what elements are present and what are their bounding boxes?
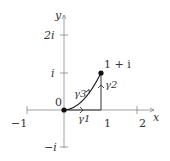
origin-label: 0 [55, 96, 62, 109]
y-tick-label-i: i [51, 67, 55, 80]
gamma3-arrow-icon [86, 90, 90, 94]
x-tick-label-1: 1 [104, 117, 111, 130]
x-axis-label: x [153, 111, 160, 124]
gamma1-label: γ1 [78, 113, 90, 124]
y-tick-label-neg-i: −i [44, 141, 57, 154]
end-point-label: 1 + i [104, 58, 131, 71]
gamma3-label: γ3 [74, 88, 86, 99]
gamma2-label: γ2 [105, 79, 117, 90]
y-axis-label: y [54, 9, 62, 22]
complex-plane-diagram: y x 2i i −i −1 1 2 0 1 + i γ1 γ2 γ3 [0, 0, 170, 161]
x-tick-label-2: 2 [139, 117, 146, 130]
origin-point [61, 107, 66, 112]
x-tick-label-neg1: −1 [11, 117, 27, 130]
y-tick-label-2i: 2i [43, 29, 55, 42]
end-point [98, 70, 103, 75]
